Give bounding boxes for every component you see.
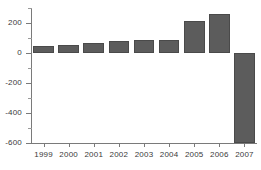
x-tick-mark	[144, 144, 145, 147]
y-tick-label: 200	[0, 19, 22, 27]
x-tick-mark	[94, 144, 95, 147]
y-tick-label: -400	[0, 109, 22, 117]
y-minor-tick-mark	[28, 98, 32, 99]
x-tick-mark	[69, 144, 70, 147]
y-tick-label: -600	[0, 139, 22, 147]
x-tick-mark	[219, 144, 220, 147]
x-tick-mark	[119, 144, 120, 147]
y-tick-mark	[26, 53, 32, 54]
y-minor-tick-mark	[28, 8, 32, 9]
bar-2003	[134, 40, 155, 54]
bar-2007	[234, 53, 255, 143]
y-tick-mark	[26, 83, 32, 84]
bar-2000	[58, 45, 79, 53]
x-tick-mark	[44, 144, 45, 147]
y-minor-tick-mark	[28, 38, 32, 39]
y-tick-mark	[26, 143, 32, 144]
y-axis-line	[31, 8, 32, 143]
y-minor-tick-mark	[28, 68, 32, 69]
bar-2004	[159, 40, 180, 54]
y-tick-label: -200	[0, 79, 22, 87]
x-tick-mark	[194, 144, 195, 147]
bar-2002	[109, 41, 130, 53]
bar-1999	[33, 46, 54, 54]
bar-chart: 2000-200-400-600 19992000200120022003200…	[0, 0, 261, 170]
bar-2006	[209, 14, 230, 53]
y-tick-mark	[26, 113, 32, 114]
y-minor-tick-mark	[28, 128, 32, 129]
bar-2005	[184, 21, 205, 53]
x-tick-label-2007: 2007	[227, 150, 261, 159]
x-tick-mark	[169, 144, 170, 147]
y-tick-mark	[26, 23, 32, 24]
y-tick-label: 0	[0, 49, 22, 57]
bar-2001	[83, 43, 104, 54]
x-tick-mark	[244, 144, 245, 147]
